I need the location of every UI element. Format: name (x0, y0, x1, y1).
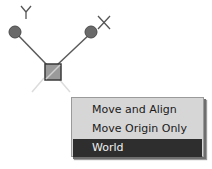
context-menu: Move and Align Move Origin Only World (71, 97, 204, 157)
x-axis-handle[interactable] (85, 16, 110, 38)
x-axis-line (56, 33, 91, 66)
origin-grip[interactable] (45, 64, 61, 80)
y-axis-line (16, 33, 48, 66)
y-axis-handle[interactable] (9, 6, 31, 38)
ghost-axis-line (32, 78, 44, 92)
menu-item-move-origin-only[interactable]: Move Origin Only (73, 120, 202, 138)
menu-item-move-and-align[interactable]: Move and Align (73, 101, 202, 119)
menu-item-world[interactable]: World (73, 139, 202, 157)
